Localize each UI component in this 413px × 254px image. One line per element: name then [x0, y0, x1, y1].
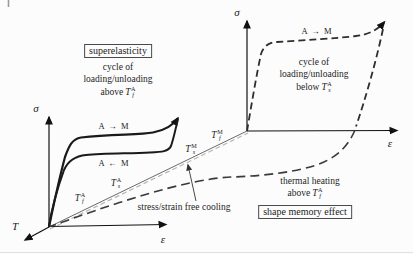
shape-memory-box-label: shape memory effect — [258, 205, 352, 219]
thermal-heating-line1: thermal heating — [280, 176, 339, 186]
epsilon-label-left: ε — [161, 234, 165, 244]
left-cycle-condition: above T A f — [101, 86, 136, 97]
temp-marker-ms: T M s — [185, 143, 196, 154]
sigma-label-right: σ — [234, 7, 239, 17]
left-lower-plateau-label: A ← M — [99, 158, 130, 168]
temp-marker-as: T A s — [111, 177, 121, 188]
temp-symbol-af-inline2: T A f — [312, 187, 322, 198]
right-cycle-condition: below T A s — [296, 81, 331, 92]
right-cycle-line2: loading/unloading — [279, 69, 348, 79]
temp-axis-arrow — [25, 227, 49, 240]
temp-symbol-af-inline: T A f — [125, 86, 135, 97]
epsilon-label-right: ε — [388, 138, 392, 148]
sma-stress-strain-diagram: superelasticity cycle of loading/unloadi… — [0, 0, 413, 254]
right-condition-prefix: below — [296, 82, 319, 92]
heating-prefix: above — [288, 188, 311, 198]
left-upper-plateau-label: A → M — [99, 121, 130, 131]
cooling-path-dashed-line — [50, 133, 248, 229]
epsilon-axis-right — [247, 131, 397, 132]
cooling-label: stress/strain free cooling — [138, 202, 231, 212]
shape-memory-unloading-curve — [356, 29, 383, 127]
temp-marker-mf: T M f — [211, 129, 222, 140]
superelasticity-box-label: superelasticity — [84, 44, 152, 58]
thermal-heating-line2: above T A f — [288, 187, 323, 198]
sigma-label-left: σ — [33, 103, 38, 113]
right-plateau-label: A → M — [302, 26, 333, 36]
temp-marker-af: T A f — [75, 192, 85, 203]
epsilon-axis-left — [49, 225, 166, 227]
left-cycle-line1: cycle of — [103, 62, 133, 72]
right-cycle-line1: cycle of — [299, 57, 329, 67]
left-condition-prefix: above — [101, 87, 124, 97]
temp-symbol-as-inline: T A s — [321, 81, 331, 92]
left-cycle-line2: loading/unloading — [83, 74, 152, 84]
temperature-axis-line — [49, 131, 247, 227]
temp-axis-label: T — [12, 221, 18, 231]
